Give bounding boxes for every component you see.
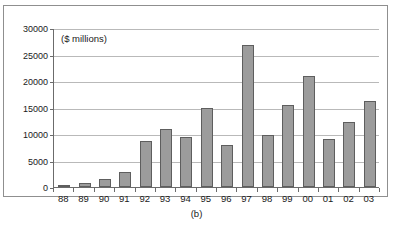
bar-slot bbox=[278, 29, 298, 187]
x-tick-label: 95 bbox=[196, 193, 216, 204]
bar-slot bbox=[319, 29, 339, 187]
x-tick-mark bbox=[53, 188, 54, 192]
bar-slot bbox=[339, 29, 359, 187]
x-tick-mark bbox=[236, 188, 237, 192]
bar bbox=[343, 122, 355, 187]
y-tick-label: 10000 bbox=[23, 131, 48, 140]
x-axis-labels: 88899091929394959697989900010203 bbox=[53, 193, 379, 207]
x-tick-label: 99 bbox=[277, 193, 297, 204]
x-tick-mark bbox=[298, 188, 299, 192]
bar-slot bbox=[136, 29, 156, 187]
x-tick-mark bbox=[196, 188, 197, 192]
x-tick-mark bbox=[257, 188, 258, 192]
bar-slot bbox=[299, 29, 319, 187]
x-tick-mark bbox=[175, 188, 176, 192]
x-tick-mark bbox=[379, 188, 380, 192]
x-tick-label: 00 bbox=[298, 193, 318, 204]
x-tick-label: 94 bbox=[175, 193, 195, 204]
bar bbox=[303, 76, 315, 187]
x-tick-label: 01 bbox=[318, 193, 338, 204]
x-tick-mark bbox=[277, 188, 278, 192]
y-tick-label: 30000 bbox=[23, 25, 48, 34]
x-tick-label: 90 bbox=[94, 193, 114, 204]
bar-slot bbox=[217, 29, 237, 187]
bar-slot bbox=[237, 29, 257, 187]
y-tick-label: 20000 bbox=[23, 78, 48, 87]
y-tick-label: 25000 bbox=[23, 52, 48, 61]
bar bbox=[119, 172, 131, 187]
bar-slot bbox=[176, 29, 196, 187]
bar bbox=[99, 179, 111, 187]
bar bbox=[262, 135, 274, 187]
x-tick-label: 02 bbox=[338, 193, 358, 204]
x-tick-label: 03 bbox=[359, 193, 379, 204]
bar bbox=[242, 45, 254, 187]
bar bbox=[180, 137, 192, 187]
x-tick-label: 93 bbox=[155, 193, 175, 204]
y-tick-label: 15000 bbox=[23, 105, 48, 114]
bar-slot bbox=[197, 29, 217, 187]
bar-slot bbox=[258, 29, 278, 187]
plot-area bbox=[53, 29, 379, 188]
x-tick-mark bbox=[73, 188, 74, 192]
x-tick-label: 96 bbox=[216, 193, 236, 204]
bar bbox=[323, 139, 335, 187]
x-tick-mark bbox=[114, 188, 115, 192]
x-tick-label: 92 bbox=[135, 193, 155, 204]
x-tick-mark bbox=[155, 188, 156, 192]
bar bbox=[201, 108, 213, 188]
x-tick-mark bbox=[94, 188, 95, 192]
bar-slot bbox=[115, 29, 135, 187]
bar bbox=[160, 129, 172, 187]
x-tick-label: 97 bbox=[236, 193, 256, 204]
x-tick-label: 88 bbox=[53, 193, 73, 204]
bar-slot bbox=[156, 29, 176, 187]
bar-series bbox=[54, 29, 379, 187]
bar bbox=[221, 145, 233, 187]
y-axis-labels: 050001000015000200002500030000 bbox=[4, 6, 48, 198]
x-tick-mark bbox=[318, 188, 319, 192]
figure-caption: (b) bbox=[0, 208, 393, 219]
bar-slot bbox=[95, 29, 115, 187]
x-tick-mark bbox=[135, 188, 136, 192]
x-tick-mark bbox=[338, 188, 339, 192]
bar bbox=[58, 185, 70, 187]
x-tick-label: 89 bbox=[73, 193, 93, 204]
x-tick-mark bbox=[216, 188, 217, 192]
y-tick-label: 0 bbox=[43, 184, 48, 193]
bar-slot bbox=[360, 29, 380, 187]
bar-slot bbox=[54, 29, 74, 187]
figure-panel-b: 050001000015000200002500030000 ($ millio… bbox=[0, 0, 393, 226]
bar bbox=[364, 101, 376, 187]
y-tick-label: 5000 bbox=[28, 158, 48, 167]
bar bbox=[282, 105, 294, 187]
x-tick-mark bbox=[359, 188, 360, 192]
bar-slot bbox=[74, 29, 94, 187]
chart-frame: 050001000015000200002500030000 ($ millio… bbox=[3, 5, 388, 197]
x-tick-label: 91 bbox=[114, 193, 134, 204]
bar bbox=[140, 141, 152, 187]
bar bbox=[79, 183, 91, 187]
x-tick-label: 98 bbox=[257, 193, 277, 204]
